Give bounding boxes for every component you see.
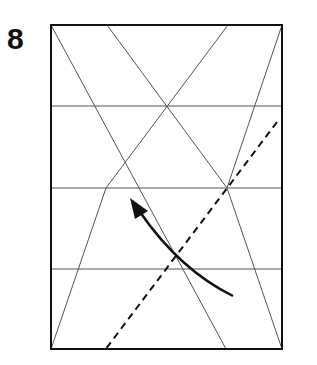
diagonal-crease-left-down (51, 25, 226, 349)
paper-outline (51, 25, 282, 349)
valley-fold-line (105, 122, 277, 350)
origami-diagram (0, 0, 317, 365)
crease-lines (51, 25, 282, 349)
